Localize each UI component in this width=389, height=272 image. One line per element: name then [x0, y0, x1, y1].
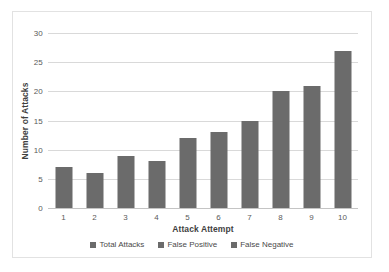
y-axis-title: Number of Attacks [18, 33, 32, 208]
x-axis-tick-label: 2 [92, 213, 96, 222]
x-axis-tick-label: 4 [154, 213, 158, 222]
x-axis-tick-label: 7 [247, 213, 251, 222]
legend-item[interactable]: Total Attacks [90, 240, 144, 249]
chart-container: Number of Attacks 051015202530 123456789… [12, 11, 372, 258]
bar[interactable] [55, 167, 72, 208]
legend-swatch-icon [158, 242, 164, 248]
bar[interactable] [334, 51, 351, 209]
legend-label: False Positive [167, 240, 217, 249]
x-axis-tick-label: 6 [216, 213, 220, 222]
legend-item[interactable]: False Positive [158, 240, 217, 249]
legend-swatch-icon [90, 242, 96, 248]
y-axis-title-label: Number of Attacks [20, 82, 30, 159]
bar-group: 1 [48, 33, 79, 208]
bar[interactable] [148, 161, 165, 208]
x-axis-tick-label: 5 [185, 213, 189, 222]
bar-group: 10 [327, 33, 358, 208]
bar-group: 8 [265, 33, 296, 208]
bar[interactable] [117, 156, 134, 209]
y-axis-tick-label: 5 [38, 174, 43, 183]
bar[interactable] [86, 173, 103, 208]
bar-group: 4 [141, 33, 172, 208]
bar[interactable] [303, 86, 320, 209]
y-axis-tick-label: 20 [34, 87, 43, 96]
bar-group: 6 [203, 33, 234, 208]
bar-group: 3 [110, 33, 141, 208]
y-axis-tick-label: 25 [34, 58, 43, 67]
bar-group: 5 [172, 33, 203, 208]
x-axis-tick-label: 8 [278, 213, 282, 222]
chart-legend: Total AttacksFalse PositiveFalse Negativ… [13, 240, 371, 249]
y-axis-tick-label: 30 [34, 29, 43, 38]
legend-label: Total Attacks [99, 240, 144, 249]
bar-group: 9 [296, 33, 327, 208]
x-axis-tick-label: 10 [338, 213, 347, 222]
y-axis-tick-label: 0 [38, 204, 43, 213]
bar[interactable] [210, 132, 227, 208]
bar[interactable] [179, 138, 196, 208]
x-axis-tick-label: 1 [61, 213, 65, 222]
bar-group: 2 [79, 33, 110, 208]
x-axis-tick-label: 9 [309, 213, 313, 222]
x-axis-tick-label: 3 [123, 213, 127, 222]
y-axis-tick-label: 10 [34, 145, 43, 154]
plot-area: 051015202530 12345678910 [48, 33, 358, 208]
legend-swatch-icon [231, 242, 237, 248]
legend-item[interactable]: False Negative [231, 240, 293, 249]
bar[interactable] [272, 91, 289, 208]
legend-label: False Negative [240, 240, 293, 249]
bar-group: 7 [234, 33, 265, 208]
gridline [48, 208, 358, 209]
y-axis-tick-label: 15 [34, 116, 43, 125]
bars-layer: 12345678910 [48, 33, 358, 208]
bar[interactable] [241, 121, 258, 209]
x-axis-title: Attack Attempt [48, 224, 358, 234]
